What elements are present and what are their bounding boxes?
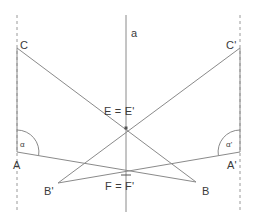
label-vertex-a-prime: A' — [227, 160, 237, 171]
point-marker-E — [125, 127, 128, 130]
label-vertex-b-prime: B' — [44, 186, 54, 197]
segment-Aprime-Bprime — [58, 152, 240, 183]
label-vertex-a: A — [13, 160, 21, 171]
label-point-f: F = F' — [105, 181, 134, 192]
segment-A-B — [17, 152, 196, 182]
label-vertex-c-prime: C' — [226, 40, 236, 51]
label-axis-a: a — [131, 28, 137, 39]
label-angle-alpha-prime: α' — [226, 141, 233, 149]
label-point-e: E = E' — [104, 106, 135, 117]
label-angle-alpha: α — [20, 141, 25, 149]
label-vertex-b: B — [202, 186, 210, 197]
label-vertex-c: C — [20, 40, 28, 51]
geometry-diagram: a C C' A A' B B' E = E' F = F' α α' — [0, 0, 255, 223]
segment-Cprime-Bprime — [58, 48, 240, 183]
